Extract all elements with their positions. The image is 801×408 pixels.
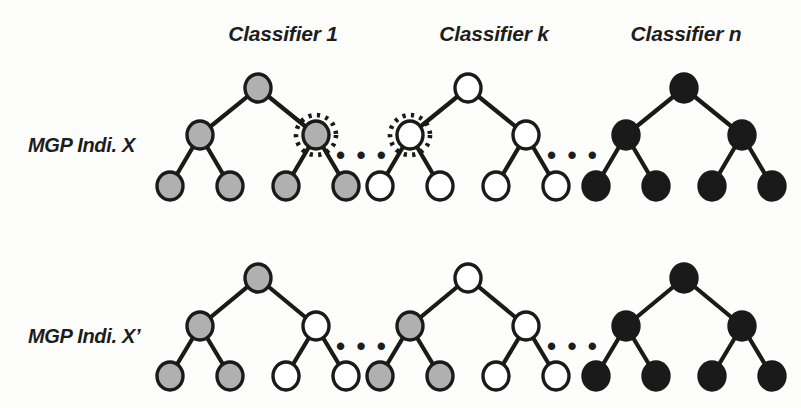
tree-xprime-classifier-1 — [157, 264, 359, 390]
tree-node-left-child — [187, 312, 213, 340]
tree-edge — [742, 326, 772, 376]
ellipsis-separator-1: • • • — [336, 142, 388, 168]
tree-node-leaf-2 — [643, 172, 669, 200]
tree-edge — [596, 326, 626, 376]
tree-node-left-child — [397, 121, 423, 149]
tree-edge — [496, 135, 526, 186]
tree-node-leaf-1 — [583, 362, 609, 390]
tree-node-leaf-4 — [759, 362, 785, 390]
tree-edge — [742, 135, 772, 186]
tree-edge — [410, 326, 440, 376]
tree-node-root — [245, 74, 271, 102]
tree-edge — [170, 326, 200, 376]
tree-xprime-classifier-n — [583, 264, 785, 390]
tree-node-leaf-1 — [367, 172, 393, 200]
tree-x-classifier-n — [583, 74, 785, 200]
tree-node-leaf-3 — [699, 362, 725, 390]
crossover-point-highlight — [296, 115, 336, 155]
ellipsis-separator-3: • • • — [336, 333, 388, 359]
tree-node-right-child — [729, 312, 755, 340]
tree-edge — [258, 278, 316, 326]
tree-edge — [468, 88, 526, 135]
column-header-3: Classifier n — [631, 22, 742, 46]
tree-node-leaf-1 — [157, 172, 183, 200]
tree-node-leaf-2 — [217, 172, 243, 200]
tree-node-leaf-2 — [217, 362, 243, 390]
tree-node-left-child — [397, 312, 423, 340]
tree-node-leaf-1 — [157, 362, 183, 390]
tree-node-leaf-2 — [643, 362, 669, 390]
tree-edge — [170, 135, 200, 186]
column-header-1: Classifier 1 — [228, 22, 338, 46]
tree-edge — [626, 326, 656, 376]
tree-edge — [626, 135, 656, 186]
column-header-2: Classifier k — [439, 22, 549, 46]
tree-edge — [596, 135, 626, 186]
tree-x-classifier-1 — [157, 74, 359, 200]
tree-node-leaf-2 — [427, 172, 453, 200]
tree-edge — [286, 135, 316, 186]
tree-edge — [200, 135, 230, 186]
tree-node-leaf-3 — [273, 172, 299, 200]
tree-x-classifier-k — [367, 74, 569, 200]
tree-node-root — [671, 74, 697, 102]
tree-node-leaf-1 — [367, 362, 393, 390]
tree-node-root — [671, 264, 697, 292]
tree-node-leaf-4 — [333, 172, 359, 200]
tree-node-leaf-4 — [543, 172, 569, 200]
tree-edge — [468, 278, 526, 326]
tree-edge — [200, 88, 258, 135]
tree-node-leaf-3 — [699, 172, 725, 200]
tree-node-right-child — [513, 312, 539, 340]
tree-node-leaf-4 — [759, 172, 785, 200]
tree-node-left-child — [613, 312, 639, 340]
tree-edge — [712, 135, 742, 186]
tree-edge — [286, 326, 316, 376]
ellipsis-separator-2: • • • — [547, 142, 599, 168]
tree-node-leaf-4 — [543, 362, 569, 390]
tree-node-root — [455, 264, 481, 292]
tree-node-left-child — [613, 121, 639, 149]
crossover-point-highlight — [390, 115, 430, 155]
tree-edge — [712, 326, 742, 376]
tree-node-right-child — [729, 121, 755, 149]
tree-node-root — [455, 74, 481, 102]
tree-node-leaf-1 — [583, 172, 609, 200]
tree-edge — [496, 326, 526, 376]
tree-node-leaf-3 — [483, 172, 509, 200]
tree-node-root — [245, 264, 271, 292]
tree-node-right-child — [303, 121, 329, 149]
tree-node-leaf-4 — [333, 362, 359, 390]
tree-edge — [258, 88, 316, 135]
tree-node-right-child — [303, 312, 329, 340]
row-label-2: MGP Indi. X’ — [28, 325, 140, 348]
tree-edge — [200, 278, 258, 326]
tree-edge — [410, 278, 468, 326]
tree-node-leaf-3 — [273, 362, 299, 390]
tree-edge — [410, 135, 440, 186]
tree-edge — [684, 88, 742, 135]
row-label-1: MGP Indi. X — [28, 134, 135, 157]
figure-canvas: Classifier 1Classifier kClassifier n MGP… — [0, 0, 801, 408]
tree-node-left-child — [187, 121, 213, 149]
tree-edge — [684, 278, 742, 326]
tree-node-right-child — [513, 121, 539, 149]
tree-node-leaf-3 — [483, 362, 509, 390]
tree-edge — [626, 278, 684, 326]
tree-edge — [410, 88, 468, 135]
tree-xprime-classifier-k — [367, 264, 569, 390]
tree-edge — [200, 326, 230, 376]
ellipsis-separator-4: • • • — [547, 333, 599, 359]
tree-edge — [626, 88, 684, 135]
tree-node-leaf-2 — [427, 362, 453, 390]
